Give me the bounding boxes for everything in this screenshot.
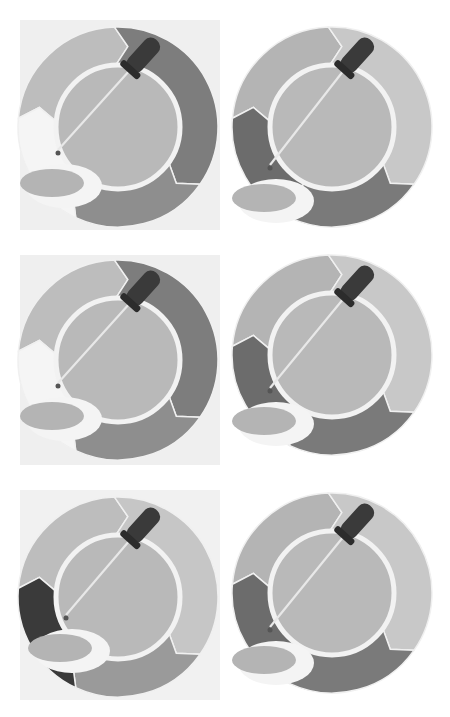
ring-segment-bottom-left [232,573,306,683]
drop-icon [268,628,273,633]
drop-icon [64,616,69,621]
ring-segment-bottom-left [18,107,92,217]
color-picker-icon-5 [0,0,450,717]
eyedropper-bulb-icon [333,260,380,308]
inner-circle [56,535,180,659]
ring-segment-bottom-right [287,163,414,227]
drop-icon [268,166,273,171]
color-picker-icon-1 [0,0,450,717]
ring-segment-bottom-left [18,577,92,687]
inner-circle [56,65,180,189]
eyedropper-bulb-icon [119,502,166,550]
ring-segment-top-right [115,497,218,654]
ring-segment-top-left [18,497,127,592]
dropper-tube [58,303,130,383]
ring-segment-top-right [329,27,432,184]
dish-icon [232,179,314,223]
color-cycle-eyedropper-icon [0,0,450,717]
dish-icon [232,641,314,685]
eyedropper-bulb-icon [119,32,166,80]
ring-segment-top-right [115,260,218,417]
inner-circle [270,65,394,189]
ring-segment-bottom-right [73,396,200,460]
color-cycle-eyedropper-icon [0,0,450,717]
inner-circle [56,298,180,422]
ring-segment-bottom-right [287,391,414,455]
ring-segment-bottom-left [18,340,92,450]
color-cycle-eyedropper-icon [0,0,450,717]
inner-circle [270,293,394,417]
color-cycle-eyedropper-icon [0,0,450,717]
color-picker-icon-3 [0,0,450,717]
ring-segment-bottom-left [232,335,306,445]
color-picker-icon-2 [0,0,450,717]
dish-icon [20,164,102,208]
color-picker-icon-4 [0,0,450,717]
eyedropper-bulb-icon [333,32,380,80]
tile-background [20,255,220,465]
drop-icon [56,384,61,389]
dropper-tube [66,540,130,615]
ring-segment-top-left [232,493,341,588]
dish-icon [28,629,110,673]
ring-segment-top-right [329,255,432,412]
color-picker-icon-6 [0,0,450,717]
dish-icon [20,397,102,441]
dropper-tube [270,298,344,388]
ring-segment-top-left [18,27,127,122]
dropper-tube [58,70,130,150]
ring-segment-top-right [115,27,218,184]
ring-segment-top-right [329,493,432,650]
drop-icon [268,389,273,394]
eyedropper-bulb-icon [119,265,166,313]
eyedropper-bulb-icon [333,498,380,546]
tile-background [20,20,220,230]
ring-segment-bottom-right [73,633,200,697]
ring-segment-bottom-left [232,107,306,217]
ring-segment-top-left [18,260,127,355]
ring-segment-top-left [232,27,341,122]
tile-background [20,490,220,700]
dish-icon [232,402,314,446]
color-cycle-eyedropper-icon [0,0,450,717]
ring-segment-top-left [232,255,341,350]
ring-segment-bottom-right [73,163,200,227]
color-cycle-eyedropper-icon [0,0,450,717]
ring-segment-bottom-right [287,629,414,693]
inner-circle [270,531,394,655]
dropper-tube [270,70,344,165]
drop-icon [56,151,61,156]
dropper-tube [270,536,344,627]
